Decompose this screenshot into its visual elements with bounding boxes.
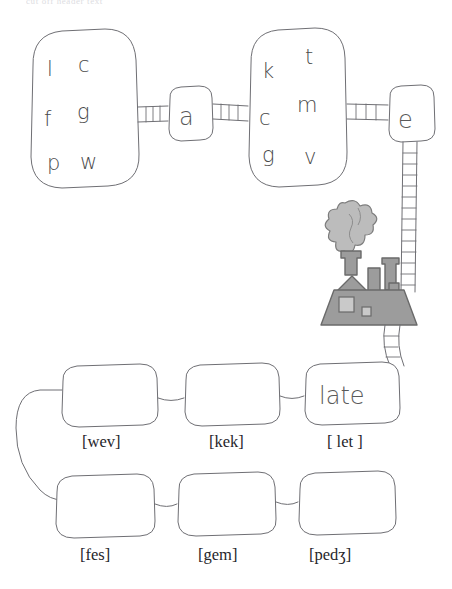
smoke-icon: [325, 201, 377, 253]
letter-w: w: [80, 150, 97, 174]
letter-l: l: [47, 57, 53, 81]
word-late: late: [319, 382, 365, 410]
letter-v: v: [304, 145, 316, 169]
factory-window-small: [362, 307, 371, 316]
word-box-row2-3[interactable]: [299, 471, 396, 535]
connector-right-to-e: [347, 104, 388, 120]
letter-g: g: [262, 143, 275, 167]
left-letter-cluster[interactable]: l c f g p w: [31, 29, 139, 188]
connector-row2-2-3: [276, 502, 298, 505]
connector-a-to-right: [213, 104, 248, 121]
letter-m: m: [297, 93, 317, 117]
vowel-node-e[interactable]: e: [389, 85, 435, 142]
word-box-row1-1[interactable]: [62, 364, 158, 427]
factory-window-large: [339, 297, 354, 312]
connector-row2-1-2: [155, 504, 177, 507]
transcription-gem: [gem]: [198, 545, 237, 564]
letter-g: g: [77, 100, 90, 124]
word-box-row2-2[interactable]: [178, 472, 276, 536]
vowel-node-a-label: a: [179, 103, 194, 131]
letter-k: k: [262, 59, 274, 83]
letter-t: t: [305, 45, 313, 69]
word-box-row2-1[interactable]: [56, 474, 155, 538]
letter-c: c: [259, 106, 271, 130]
ladder-factory-to-late: [384, 325, 404, 366]
transcription-let: [ let ]: [327, 432, 363, 451]
ladder-e-to-factory: [401, 142, 417, 292]
right-letter-cluster[interactable]: k t c m g v: [249, 28, 347, 187]
connector-row1-2-3: [280, 396, 304, 399]
transcription-wev: [wev]: [82, 432, 120, 451]
transcription-pedzh: [pedʒ]: [309, 545, 351, 564]
letter-c: c: [78, 53, 90, 77]
connector-row1-to-row2: [16, 390, 62, 500]
connector-left-to-a: [138, 106, 168, 122]
word-box-row1-2[interactable]: [185, 363, 280, 426]
word-box-row1-3[interactable]: late: [305, 362, 400, 425]
vowel-node-e-label: e: [398, 106, 413, 134]
diagram-canvas: cut off header text l c f g p w a: [0, 0, 452, 589]
letter-f: f: [44, 107, 52, 131]
transcription-fes: [fes]: [80, 545, 110, 564]
vowel-node-a[interactable]: a: [169, 86, 213, 141]
letter-p: p: [47, 151, 60, 175]
connector-row1-1-2: [158, 398, 184, 401]
transcription-kek: [kek]: [209, 432, 244, 451]
phonology-diagram: l c f g p w a: [0, 0, 452, 589]
